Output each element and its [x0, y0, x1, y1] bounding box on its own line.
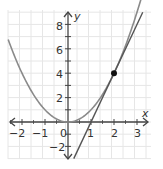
x-tick-label: 2: [111, 127, 118, 140]
tangent-point-marker: [111, 70, 117, 76]
x-axis-label: x: [141, 107, 149, 120]
y-tick-label: 2: [56, 92, 63, 105]
y-tick-label: −2: [49, 141, 65, 154]
x-tick-label: −2: [9, 127, 25, 140]
x-tick-label: −1: [32, 127, 48, 140]
y-tick-label: 6: [56, 44, 63, 57]
x-tick-label: 1: [87, 127, 94, 140]
y-tick-label: 4: [56, 68, 63, 81]
x-tick-label: 3: [134, 127, 141, 140]
origin-label: 0: [60, 127, 67, 140]
plot-area: y x 0 −2 −1 1 2 3 8 6 4 2 −2: [0, 0, 163, 169]
chart-figure: y x 0 −2 −1 1 2 3 8 6 4 2 −2: [0, 0, 163, 169]
y-axis-label: y: [73, 10, 81, 23]
y-tick-label: 8: [56, 20, 63, 33]
